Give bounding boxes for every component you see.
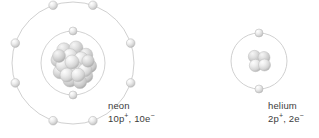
neon-electron-charge: − [150,111,154,118]
helium-composition: 2p+, 2e− [268,113,304,126]
helium-element-name: helium [268,100,304,113]
neon-composition: 10p+, 10e− [108,113,155,126]
neon-label-group: neon 10p+, 10e− [108,100,155,125]
electron [126,39,135,48]
electron [69,91,77,99]
helium-nucleus [248,50,270,71]
electron [11,79,20,88]
neon-proton-count: 10 [108,113,119,124]
electron [49,116,58,125]
electron [69,27,77,35]
helium-electron-charge: − [300,111,304,118]
electron [255,29,263,37]
neon-electron-count: 10 [134,113,145,124]
electron [255,85,263,93]
electron [49,1,58,10]
electron [126,79,135,88]
electron [89,116,98,125]
electron [11,39,20,48]
neon-element-name: neon [108,100,155,113]
helium-label-group: helium 2p+, 2e− [268,100,304,125]
electron [89,1,98,10]
